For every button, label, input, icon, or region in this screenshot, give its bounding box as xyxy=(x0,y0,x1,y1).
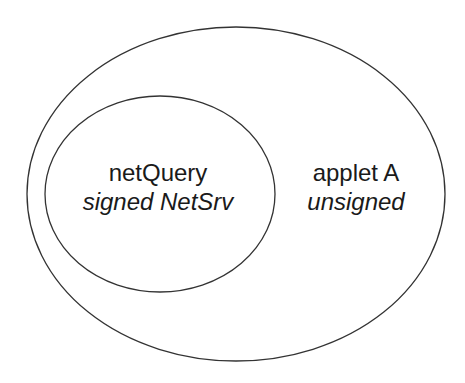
inner-subtitle: signed NetSrv xyxy=(83,188,236,215)
inner-title: netQuery xyxy=(109,159,208,186)
outer-title: applet A xyxy=(313,159,400,186)
outer-subtitle: unsigned xyxy=(307,188,405,215)
nested-ellipse-diagram: netQuery signed NetSrv applet A unsigned xyxy=(0,0,465,383)
